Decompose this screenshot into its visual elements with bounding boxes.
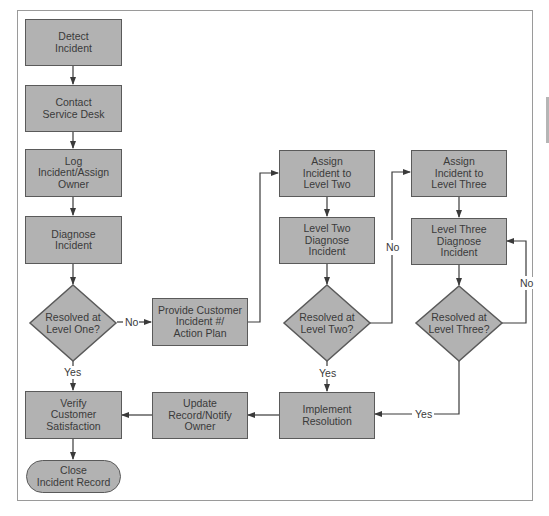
- node-level-three-diagnose: Level Three Diagnose Incident: [411, 218, 507, 265]
- node-assign-level-three: Assign Incident to Level Three: [411, 150, 507, 197]
- edge-provide-assign-two: [247, 173, 278, 322]
- node-label: Implement Resolution: [302, 404, 352, 427]
- edge-label-level-one-no: No: [124, 316, 139, 328]
- node-label: Diagnose Incident: [51, 229, 95, 252]
- node-log-incident: Log Incident/Assign Owner: [25, 149, 122, 197]
- edge-label-level-two-yes: Yes: [318, 367, 337, 379]
- node-detect-incident: Detect Incident: [25, 19, 122, 66]
- node-diagnose-incident: Diagnose Incident: [25, 216, 122, 264]
- node-implement-resolution: Implement Resolution: [279, 392, 375, 439]
- node-contact-service-desk: Contact Service Desk: [25, 85, 122, 132]
- node-label: Provide Customer Incident #/ Action Plan: [158, 305, 242, 340]
- node-label: Close Incident Record: [37, 465, 111, 488]
- edge-resolved-three-no-b: [507, 241, 526, 276]
- node-label: Level Two Diagnose Incident: [303, 223, 350, 258]
- node-level-two-diagnose: Level Two Diagnose Incident: [279, 217, 375, 264]
- edge-label-level-three-yes: Yes: [414, 408, 433, 420]
- edge-resolved-three-no-a: [502, 290, 526, 323]
- node-label: Detect Incident: [55, 31, 92, 54]
- node-label: Level Three Diagnose Incident: [431, 224, 486, 259]
- edge-label-level-one-yes: Yes: [63, 366, 82, 378]
- node-close-incident-record: Close Incident Record: [26, 460, 121, 493]
- decision-label-level-two: Resolved at Level Two?: [287, 305, 367, 341]
- edge-label-level-three-no: No: [519, 277, 534, 289]
- decision-label-level-one: Resolved at Level One?: [33, 305, 113, 341]
- node-label: Assign Incident to Level Two: [303, 156, 351, 191]
- node-label: Log Incident/Assign Owner: [38, 156, 109, 191]
- node-label: Update Record/Notify Owner: [168, 398, 232, 433]
- decision-label-level-three: Resolved at Level Three?: [417, 305, 501, 341]
- node-label: Assign Incident to Level Three: [431, 156, 486, 191]
- flowchart-canvas: Detect Incident Contact Service Desk Log…: [0, 0, 549, 516]
- edge-resolved-two-no-b: [392, 172, 410, 240]
- edge-resolved-two-no-a: [370, 255, 392, 323]
- node-label: Verify Customer Satisfaction: [46, 398, 100, 433]
- node-verify-satisfaction: Verify Customer Satisfaction: [25, 391, 122, 439]
- node-provide-customer-plan: Provide Customer Incident #/ Action Plan: [152, 298, 248, 346]
- edge-resolved-three-yes-a: [434, 361, 459, 414]
- node-assign-level-two: Assign Incident to Level Two: [279, 150, 375, 197]
- edge-label-level-two-no: No: [385, 241, 400, 253]
- node-update-record: Update Record/Notify Owner: [152, 392, 248, 439]
- node-label: Contact Service Desk: [43, 97, 105, 120]
